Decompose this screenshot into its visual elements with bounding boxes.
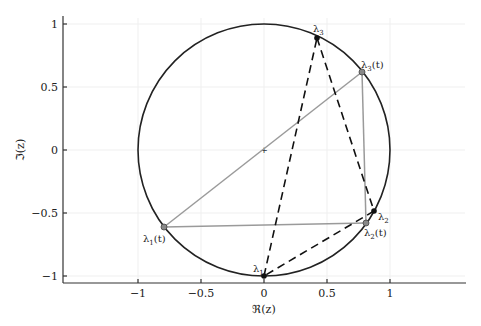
x-tick-label: 1 <box>387 287 394 300</box>
x-tick-label: −0.5 <box>188 287 215 300</box>
y-tick-label: 1 <box>51 18 58 31</box>
original-triangle <box>264 38 374 276</box>
point-lambda2 <box>371 208 377 214</box>
x-axis-label: ℜ(z) <box>252 303 275 316</box>
x-tick-labels: −1 −0.5 0 0.5 1 <box>130 287 394 300</box>
y-axis-label: ℑ(z) <box>14 139 27 161</box>
y-tick-label: −1 <box>42 270 58 283</box>
complex-plane-figure: 1 0.5 0 −0.5 −1 −1 −0.5 0 0.5 1 ℜ(z) ℑ(z… <box>0 0 481 326</box>
points <box>161 35 377 279</box>
label-lambda2-t: λ2(t) <box>364 227 387 241</box>
point-lambda2-t <box>363 220 369 226</box>
x-tick-label: 0.5 <box>318 287 336 300</box>
y-tick-label: 0 <box>51 144 58 157</box>
y-tick-label: 0.5 <box>41 81 59 94</box>
y-tick-label: −0.5 <box>31 207 58 220</box>
x-tick-label: −1 <box>130 287 146 300</box>
point-lambda1-t <box>161 224 167 230</box>
label-lambda1-t: λ1(t) <box>143 233 166 247</box>
y-tick-labels: 1 0.5 0 −0.5 −1 <box>31 18 58 283</box>
x-tick-label: 0 <box>261 287 268 300</box>
